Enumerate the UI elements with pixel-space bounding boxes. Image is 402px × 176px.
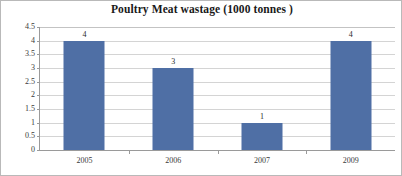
y-axis-tick-label: 2.5: [1, 78, 35, 86]
x-axis-tick-label: 2006: [165, 156, 181, 165]
bar-value-label: 1: [260, 112, 264, 121]
y-axis-tick-label: 0.5: [1, 132, 35, 140]
x-axis-tick-label: 2009: [343, 156, 359, 165]
x-axis-tick-label: 2007: [254, 156, 270, 165]
bar-slot: 3: [129, 27, 218, 150]
bar-value-label: 3: [171, 57, 175, 66]
bars-group: 4314: [40, 27, 395, 150]
y-axis-tick-label: 0: [1, 146, 35, 154]
bar[interactable]: [64, 41, 105, 150]
y-axis-tick-mark: [37, 150, 40, 151]
y-axis-tick-label: 2: [1, 91, 35, 99]
x-axis-tick-mark: [306, 150, 307, 154]
bar-slot: 4: [40, 27, 129, 150]
y-axis-tick-label: 1: [1, 119, 35, 127]
chart-container: Poultry Meat wastage (1000 tonnes ) 4.54…: [0, 0, 402, 176]
y-axis-tick-label: 4.5: [1, 23, 35, 31]
bar-value-label: 4: [349, 30, 353, 39]
y-axis-tick-label: 4: [1, 37, 35, 45]
bar[interactable]: [330, 41, 371, 150]
y-axis-tick-label: 1.5: [1, 105, 35, 113]
bar-slot: 4: [306, 27, 395, 150]
bar[interactable]: [241, 123, 282, 150]
plot-area: 4.543.532.521.510.50 4314 20052006200720…: [39, 27, 395, 151]
y-axis-tick-label: 3.5: [1, 50, 35, 58]
bar-value-label: 4: [82, 30, 86, 39]
x-axis-tick-label: 2005: [76, 156, 92, 165]
chart-title: Poultry Meat wastage (1000 tonnes ): [1, 3, 402, 15]
bar[interactable]: [153, 68, 194, 150]
x-axis-tick-mark: [218, 150, 219, 154]
bar-slot: 1: [218, 27, 307, 150]
x-axis-tick-mark: [129, 150, 130, 154]
y-axis-tick-label: 3: [1, 64, 35, 72]
